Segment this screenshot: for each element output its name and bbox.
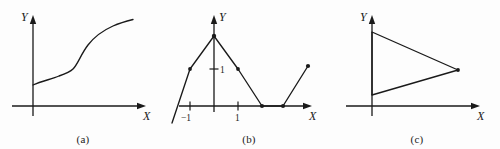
y-axis-label-c: Y: [360, 10, 368, 24]
y-axis-label-a: Y: [21, 10, 29, 24]
panel-c-plot: Y X: [334, 0, 500, 149]
figure-container: Y X (a): [0, 0, 500, 149]
caption-a: (a): [0, 133, 166, 145]
panel-a-plot: Y X: [0, 0, 166, 149]
panel-b: −1 1 1 Y X (b): [166, 0, 332, 149]
x-axis-b: [179, 103, 312, 109]
x-axis-label-c: X: [476, 109, 485, 123]
caption-c: (c): [334, 133, 500, 145]
apex-marker-c: [456, 68, 460, 72]
caption-b: (b): [166, 133, 332, 145]
x-tick-label-1-b: 1: [235, 113, 240, 123]
x-axis-a: [12, 103, 146, 109]
panel-c: Y X (c): [334, 0, 500, 149]
curve-c: [372, 32, 458, 95]
y-tick-label-1-b: 1: [220, 65, 225, 75]
x-tick-label-minus1-b: −1: [181, 113, 191, 123]
x-axis-label-a: X: [142, 109, 151, 123]
x-axis-label-b: X: [308, 109, 317, 123]
y-axis-label-b: Y: [219, 10, 227, 24]
y-axis-b: [211, 15, 217, 112]
markers-b: [188, 34, 310, 108]
y-axis-a: [30, 15, 36, 116]
curve-b: [172, 36, 308, 123]
curve-a: [33, 20, 133, 86]
panel-b-plot: −1 1 1 Y X: [166, 0, 332, 149]
panel-a: Y X (a): [0, 0, 166, 149]
x-axis-c: [346, 103, 480, 109]
